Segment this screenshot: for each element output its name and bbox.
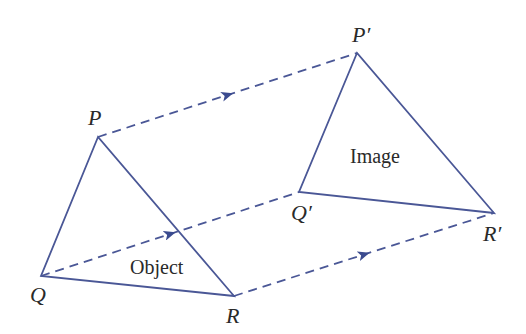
object-label: Object xyxy=(130,257,183,277)
vector-r-to-r-prime xyxy=(234,213,494,296)
vertex-label-q: Q xyxy=(30,284,46,306)
translation-vectors xyxy=(41,53,494,296)
image-triangle xyxy=(299,53,494,213)
vertex-label-p: P xyxy=(88,107,101,129)
translation-diagram: P Q R P′ Q′ R′ Object Image xyxy=(0,0,526,334)
vertex-label-r-prime: R′ xyxy=(483,223,501,245)
vertex-label-p-prime: P′ xyxy=(352,24,370,46)
diagram-canvas xyxy=(0,0,526,334)
vertex-label-q-prime: Q′ xyxy=(291,202,312,224)
vector-p-to-p-prime xyxy=(98,53,357,137)
vertex-label-r: R xyxy=(226,305,239,327)
image-label: Image xyxy=(350,146,400,166)
